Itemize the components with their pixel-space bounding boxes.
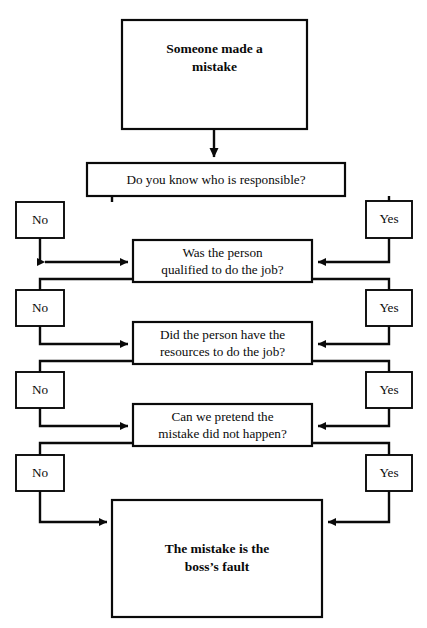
edge-q4-to-yes4 [312,443,389,455]
edge-q3-to-no3 [40,361,133,372]
edge-yes2-to-q3 [318,326,389,344]
node-q3: Did the person have the resources to do … [133,322,312,364]
node-start-line2: mistake [192,59,237,74]
answer-no-4-label: No [32,465,49,480]
node-end: The mistake is the boss’s fault [112,500,322,617]
answer-no-2-label: No [32,300,49,315]
answer-yes-1-label: Yes [379,211,398,226]
node-q3-line2: resources to do the job? [160,344,285,359]
edge-q2-to-no2 [40,279,133,290]
node-start: Someone made a mistake [122,20,307,129]
node-q2: Was the person qualified to do the job? [133,240,312,282]
node-q1: Do you know who is responsible? [87,163,345,196]
edge-q4-to-no4 [40,443,133,455]
node-q4-line1: Can we pretend the [171,409,273,424]
node-q4: Can we pretend the mistake did not happe… [133,404,312,446]
answer-yes-2: Yes [366,290,412,326]
node-q2-line2: qualified to do the job? [161,262,283,277]
flowchart-svg: Someone made a mistake Do you know who i… [0,0,427,628]
answer-no-1: No [16,202,64,238]
node-start-line1: Someone made a [166,41,263,56]
answer-no-2: No [16,290,64,326]
answer-yes-1: Yes [366,201,412,238]
answer-yes-3-label: Yes [379,382,398,397]
edge-no2-to-q3 [40,326,128,344]
answer-no-4: No [16,455,64,491]
node-start-box [122,20,307,129]
answer-no-3-label: No [32,382,49,397]
edge-q2-to-yes2 [312,279,389,290]
edge-yes4-to-end [328,491,389,522]
node-q2-line1: Was the person [182,245,263,260]
edge-no4-to-end [40,491,107,522]
answer-no-1-label: No [32,212,49,227]
edge-yes3-to-q4 [318,408,389,426]
answer-yes-4-label: Yes [379,465,398,480]
edge-no3-to-q4 [40,408,128,426]
node-q1-line1: Do you know who is responsible? [126,172,305,187]
node-q4-line2: mistake did not happen? [158,426,287,441]
flowchart-canvas: Someone made a mistake Do you know who i… [0,0,427,628]
answer-no-3: No [16,372,64,408]
node-end-line2: boss’s fault [185,559,250,574]
edge-yes1-to-q2 [318,238,389,262]
node-q3-line1: Did the person have the [160,327,285,342]
answer-yes-4: Yes [366,455,412,491]
answer-yes-2-label: Yes [379,300,398,315]
answer-yes-3: Yes [366,372,412,408]
node-end-line1: The mistake is the [165,541,270,556]
edge-q3-to-yes3 [312,361,389,372]
